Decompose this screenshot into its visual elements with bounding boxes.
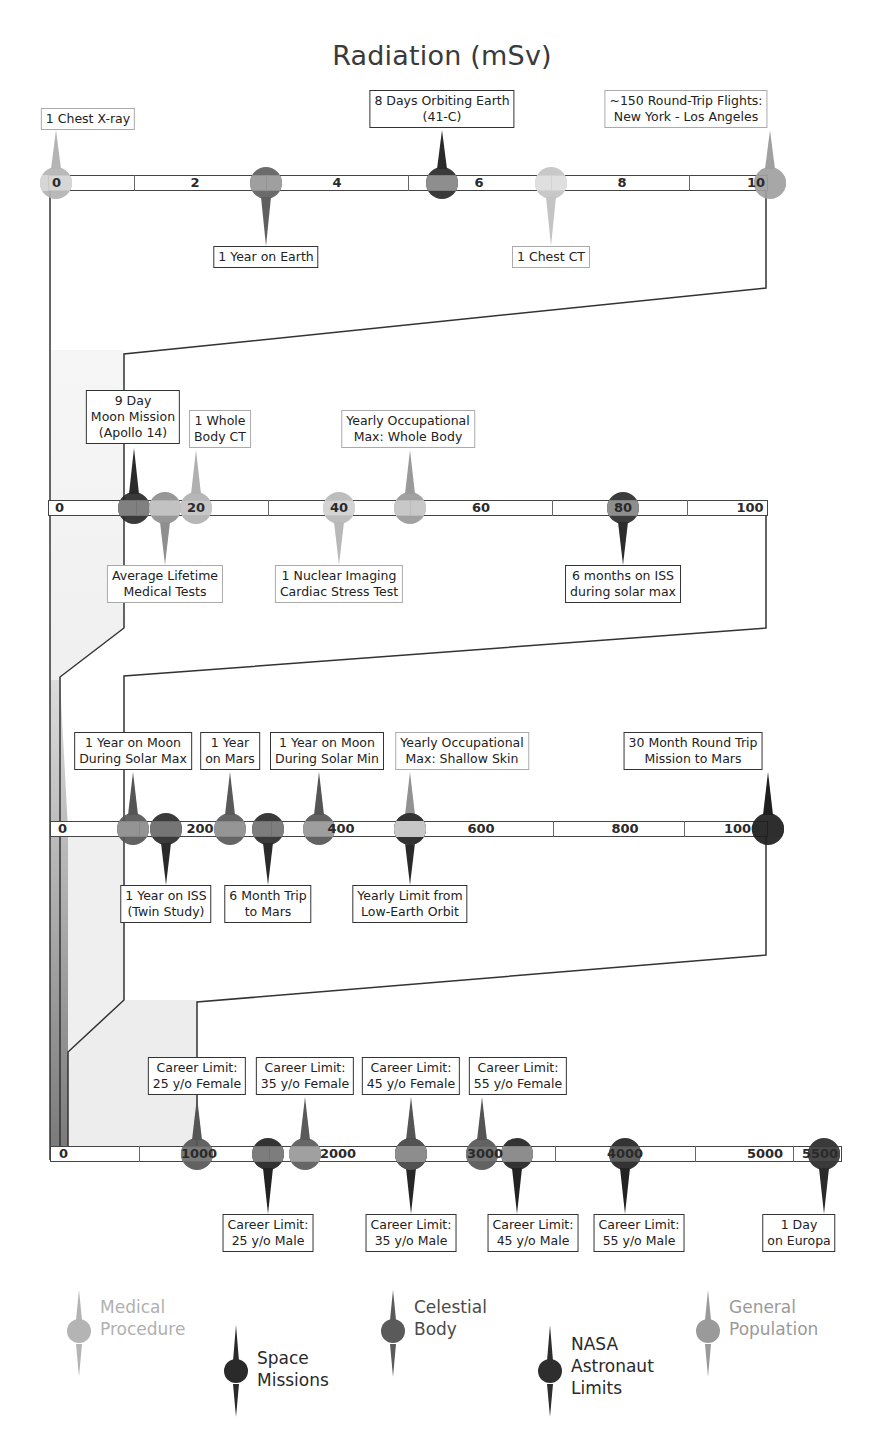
- medical-pin-icon: [51, 130, 61, 169]
- event-label-line: Medical Tests: [112, 584, 218, 600]
- tick-label: 6: [474, 176, 483, 190]
- event-label-line: New York - Los Angeles: [609, 109, 762, 125]
- event-label-mars-30: 30 Month Round TripMission to Mars: [624, 732, 763, 770]
- event-label-line: Career Limit:: [367, 1060, 455, 1076]
- event-label-line: Career Limit:: [371, 1217, 452, 1233]
- tick-label: 600: [467, 822, 494, 836]
- event-label-line: to Mars: [229, 904, 306, 920]
- nasa-marker-icon: [501, 1138, 533, 1170]
- general-pin-icon: [405, 450, 415, 494]
- medical-pin-icon: [546, 197, 556, 246]
- marker-band: [394, 500, 426, 516]
- nasa-pin-icon: [300, 1097, 310, 1140]
- tick-label: 8: [617, 176, 626, 190]
- marker-band: [252, 1146, 284, 1162]
- event-label-line: Mission to Mars: [629, 751, 758, 767]
- axis-bar: [50, 1146, 842, 1162]
- space-pin-icon: [263, 843, 273, 885]
- tick-label: 2000: [320, 1147, 356, 1161]
- tick-mark: [268, 500, 269, 516]
- event-label-line: 30 Month Round Trip: [629, 735, 758, 751]
- tick-label: 4000: [607, 1147, 643, 1161]
- space-pin-icon: [437, 130, 447, 169]
- medical-marker-icon: [149, 492, 181, 524]
- space-pin-icon: [618, 522, 628, 565]
- space-pin-icon: [223, 1325, 249, 1420]
- event-label-line: 45 y/o Female: [367, 1076, 455, 1092]
- event-label-line: 1 Year on Moon: [275, 735, 379, 751]
- event-label-line: 1 Chest CT: [517, 249, 585, 265]
- event-label-line: ~150 Round-Trip Flights:: [609, 93, 762, 109]
- event-label-line: Yearly Limit from: [357, 888, 462, 904]
- tick-label: 100: [736, 501, 763, 515]
- event-label-line: 1 Day: [767, 1217, 830, 1233]
- event-label-line: Body CT: [194, 429, 246, 445]
- event-label-line: 1 Whole: [194, 413, 246, 429]
- event-label-m25: Career Limit:25 y/o Male: [223, 1214, 314, 1252]
- event-label-line: 6 months on ISS: [570, 568, 676, 584]
- event-label-line: Moon Mission: [91, 409, 175, 425]
- event-label-iss-solar: 6 months on ISSduring solar max: [565, 565, 681, 603]
- celestial-pin-icon: [819, 1168, 829, 1214]
- event-label-line: 1 Nuclear Imaging: [280, 568, 398, 584]
- event-label-line: Cardiac Stress Test: [280, 584, 398, 600]
- space-pin-icon: [129, 448, 139, 494]
- celestial-marker-icon: [214, 813, 246, 845]
- general-pin-icon: [695, 1290, 721, 1380]
- event-label-line: Average Lifetime: [112, 568, 218, 584]
- space-marker-icon: [426, 167, 458, 199]
- tick-label: 5000: [747, 1147, 783, 1161]
- medical-pin-icon: [160, 522, 170, 565]
- legend-medical: MedicalProcedure: [66, 1290, 92, 1384]
- event-label-m35: Career Limit:35 y/o Male: [366, 1214, 457, 1252]
- tick-mark: [555, 1146, 556, 1162]
- legend-celestial: CelestialBody: [380, 1290, 406, 1384]
- event-label-europa: 1 Dayon Europa: [762, 1214, 835, 1252]
- tick-label: 20: [187, 501, 205, 515]
- event-label-occ-whole: Yearly OccupationalMax: Whole Body: [341, 410, 475, 448]
- tick-mark: [552, 500, 553, 516]
- general-marker-icon: [394, 492, 426, 524]
- legend-space: SpaceMissions: [223, 1325, 249, 1424]
- event-label-moon-min: 1 Year on MoonDuring Solar Min: [270, 732, 384, 770]
- celestial-marker-icon: [250, 167, 282, 199]
- event-label-line: 25 y/o Male: [228, 1233, 309, 1249]
- event-label-cardiac: 1 Nuclear ImagingCardiac Stress Test: [275, 565, 403, 603]
- celestial-pin-icon: [128, 772, 138, 815]
- marker-band: [394, 821, 426, 837]
- general-pin-icon: [765, 130, 775, 169]
- event-label-line: 35 y/o Female: [261, 1076, 349, 1092]
- marker-band: [214, 821, 246, 837]
- event-label-line: on Mars: [205, 751, 255, 767]
- nasa-pin-icon: [477, 1097, 487, 1140]
- event-label-line: Career Limit:: [474, 1060, 562, 1076]
- event-label-mars-year: 1 Yearon Mars: [200, 732, 260, 770]
- tick-label: 800: [611, 822, 638, 836]
- event-label-leo-limit: Yearly Limit fromLow-Earth Orbit: [352, 885, 467, 923]
- tick-label: 400: [327, 822, 354, 836]
- marker-band: [252, 821, 284, 837]
- event-label-line: Career Limit:: [493, 1217, 574, 1233]
- space-pin-icon: [763, 772, 773, 815]
- event-label-line: 8 Days Orbiting Earth: [374, 93, 509, 109]
- space-marker-icon: [118, 492, 150, 524]
- nasa-pin-icon: [537, 1325, 563, 1420]
- marker-band: [250, 175, 282, 191]
- tick-label: 4: [332, 176, 341, 190]
- event-label-line: 1 Year on ISS: [125, 888, 206, 904]
- event-label-line: Career Limit:: [228, 1217, 309, 1233]
- medical-marker-icon: [535, 167, 567, 199]
- event-label-line: 9 Day: [91, 393, 175, 409]
- tick-label: 0: [52, 176, 61, 190]
- celestial-pin-icon: [261, 197, 271, 246]
- space-marker-icon: [150, 813, 182, 845]
- nasa-pin-icon: [406, 1097, 416, 1140]
- tick-label: 2: [190, 176, 199, 190]
- legend-label: GeneralPopulation: [729, 1296, 818, 1340]
- tick-label: 1000: [181, 1147, 217, 1161]
- event-label-line: 25 y/o Female: [153, 1076, 241, 1092]
- marker-band: [150, 821, 182, 837]
- nasa-pin-icon: [620, 1168, 630, 1214]
- space-pin-icon: [161, 843, 171, 885]
- event-label-chest-ct: 1 Chest CT: [512, 246, 590, 268]
